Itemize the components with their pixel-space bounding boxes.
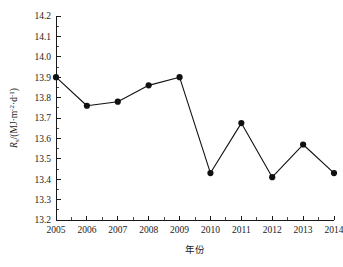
x-tick-label: 2012 [263, 225, 282, 235]
x-tick-label: 2011 [232, 225, 251, 235]
y-tick-label: 13.7 [34, 113, 51, 123]
data-point: 2008: 13.86 [146, 82, 152, 88]
data-point: 2010: 13.43 [207, 170, 213, 176]
data-point: 2012: 13.41 [269, 174, 275, 180]
x-tick-label: 2010 [201, 225, 220, 235]
y-tick-label: 13.3 [34, 195, 51, 205]
data-point: 2006: 13.76 [84, 103, 90, 109]
y-tick-label: 14.1 [34, 32, 51, 42]
x-tick-label: 2009 [170, 225, 189, 235]
y-tick-label: 13.6 [34, 134, 51, 144]
y-tick-label: 14.0 [34, 52, 51, 62]
data-point: 2013: 13.57 [300, 141, 306, 147]
y-tick-label: 13.9 [34, 73, 51, 83]
axes [56, 16, 334, 220]
x-tick-label: 2014 [325, 225, 343, 235]
y-tick-label: 13.2 [34, 215, 51, 225]
x-tick-label: 2008 [139, 225, 158, 235]
y-tick-label: 13.4 [34, 175, 51, 185]
line-chart: 13.213.313.413.513.613.713.813.914.014.1… [0, 0, 343, 267]
x-axis-title: 年份 [185, 244, 205, 255]
series-line [56, 77, 334, 177]
data-point: 2007: 13.78 [115, 99, 121, 105]
x-tick-label: 2007 [108, 225, 127, 235]
data-series: 2005: 13.92006: 13.762007: 13.782008: 13… [53, 74, 337, 180]
data-point: 2014: 13.43 [331, 170, 337, 176]
y-tick-label: 13.5 [34, 154, 51, 164]
x-tick-label: 2005 [47, 225, 66, 235]
y-axis-title: Rs/(MJ·m-2·d-1) [8, 88, 22, 149]
x-tick-label: 2013 [294, 225, 313, 235]
y-tick-label: 13.8 [34, 93, 51, 103]
data-point: 2011: 13.675 [238, 120, 244, 126]
data-point: 2005: 13.9 [53, 74, 59, 80]
y-axis-ticks: 13.213.313.413.513.613.713.813.914.014.1… [34, 11, 60, 225]
x-tick-label: 2006 [77, 225, 96, 235]
chart-figure: 13.213.313.413.513.613.713.813.914.014.1… [0, 0, 343, 267]
y-tick-label: 14.2 [34, 11, 51, 21]
x-axis-ticks: 2005200620072008200920102011201220132014 [47, 216, 343, 236]
data-point: 2009: 13.9 [176, 74, 182, 80]
